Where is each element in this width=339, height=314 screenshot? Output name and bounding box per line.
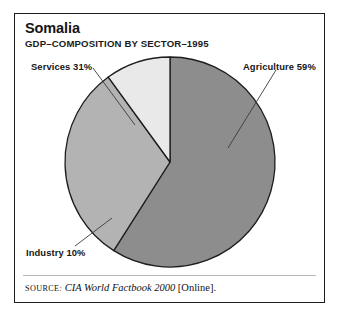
figure-panel: Somalia GDP–COMPOSITION BY SECTOR–1995 S… [0, 0, 339, 314]
pie-slice-group [65, 57, 275, 267]
pie-label-agriculture: Agriculture 59% [243, 61, 316, 72]
source-note: SOURCE: CIA World Factbook 2000 [Online]… [25, 282, 216, 293]
source-work-title: CIA World Factbook 2000 [65, 282, 176, 293]
pie-label-industry: Industry 10% [26, 247, 86, 258]
source-divider [23, 275, 316, 276]
pie-label-services: Services 31% [31, 61, 92, 72]
source-suffix: [Online]. [178, 282, 216, 293]
source-label: SOURCE: [25, 284, 62, 293]
pie-chart [0, 0, 339, 314]
